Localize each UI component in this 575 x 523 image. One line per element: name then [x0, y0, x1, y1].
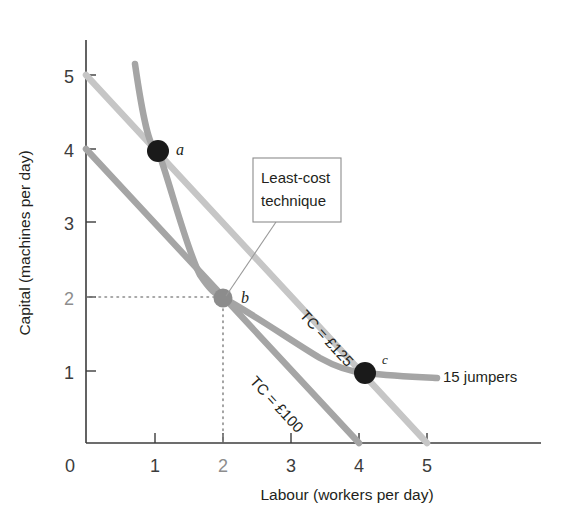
y-axis-title: Capital (machines per day)	[16, 150, 33, 335]
callout-line-2: technique	[261, 192, 326, 209]
callout-line-1: Least-cost	[261, 169, 331, 186]
point-label-a: a	[176, 141, 184, 158]
x-tick-label-3: 3	[286, 456, 296, 476]
x-tick-label-2: 2	[218, 456, 228, 476]
point-label-c: c	[382, 352, 388, 367]
y-tick-label-3: 3	[64, 214, 74, 234]
point-label-b: b	[241, 289, 249, 306]
data-point-c[interactable]	[354, 362, 376, 384]
y-tick-label-2: 2	[64, 289, 74, 309]
x-tick-label-0: 0	[65, 456, 75, 476]
x-tick-label-4: 4	[354, 456, 364, 476]
x-tick-label-1: 1	[150, 456, 160, 476]
data-point-a[interactable]	[147, 140, 169, 162]
isoquant-isocost-chart: a b c Least-cost technique TC = £125 TC …	[0, 0, 575, 523]
y-tick-label-1: 1	[64, 363, 74, 383]
isoquant-label-connector	[413, 376, 437, 377]
chart-canvas: a b c Least-cost technique TC = £125 TC …	[0, 0, 575, 523]
y-tick-label-5: 5	[64, 67, 74, 87]
y-tick-label-4: 4	[64, 141, 74, 161]
x-tick-label-5: 5	[422, 456, 432, 476]
isoquant-label: 15 jumpers	[443, 368, 517, 385]
x-axis-title: Labour (workers per day)	[260, 486, 433, 503]
callout-box	[253, 158, 341, 222]
